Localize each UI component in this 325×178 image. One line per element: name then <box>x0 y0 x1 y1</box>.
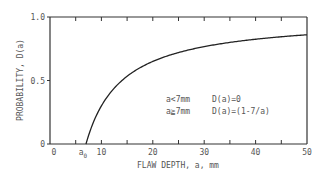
x-tick-label-a0: a0 <box>79 148 88 159</box>
y-tick-label: 1.0 <box>31 13 46 22</box>
x-tick-label: 10 <box>97 148 107 157</box>
annotation-cond-1: a<7mm <box>166 95 190 104</box>
x-tick-label: 40 <box>251 148 261 157</box>
annotation-expr-2: D(a)=(1-7/a) <box>212 107 270 116</box>
series-line-d-a <box>86 35 307 144</box>
x-tick-label: 20 <box>148 148 158 157</box>
chart: 00.51.001020304050a0 PROBABILITY, D(a) F… <box>0 0 325 178</box>
x-tick-label: 0 <box>52 148 57 157</box>
x-axis-label: FLAW DEPTH, a, mm <box>137 161 219 170</box>
y-tick-label: 0.5 <box>31 77 46 86</box>
x-tick-label: 30 <box>199 148 209 157</box>
annotation-cond-2: a≧7mm <box>166 107 190 116</box>
annotation-expr-1: D(a)=0 <box>212 95 241 104</box>
plot-frame <box>50 17 307 144</box>
y-axis-label: PROBABILITY, D(a) <box>16 39 25 121</box>
y-tick-label: 0 <box>40 140 45 149</box>
x-tick-label: 50 <box>302 148 312 157</box>
